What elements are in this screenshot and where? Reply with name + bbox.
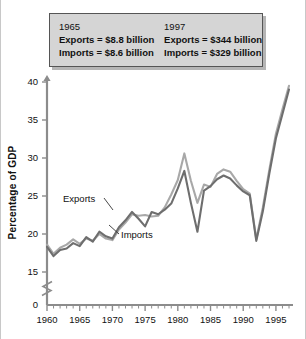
- fact-year-1965: 1965: [59, 20, 155, 33]
- chart-svg: 0152025303540 19601965197019751980198519…: [1, 70, 306, 339]
- y-axis-ticks: 0152025303540: [27, 76, 47, 310]
- y-tick-label: 15: [27, 266, 38, 277]
- x-tick-label: 1975: [135, 314, 156, 325]
- y-tick-label: 25: [27, 190, 38, 201]
- fact-box: 1965 Exports = $8.8 billion Imports = $8…: [49, 13, 263, 67]
- y-tick-label: 40: [27, 76, 38, 87]
- series-line-exports: [47, 86, 289, 254]
- fact-exports-1997: Exports = $344 billion: [164, 33, 262, 46]
- y-tick-label: 20: [27, 228, 38, 239]
- imports-annotation: Imports: [121, 229, 153, 240]
- axis-lines: [42, 75, 293, 305]
- exports-annotation: Exports: [63, 193, 95, 204]
- y-tick-label: 30: [27, 152, 38, 163]
- fact-exports-1965: Exports = $8.8 billion: [59, 33, 155, 46]
- x-tick-label: 1960: [36, 314, 57, 325]
- chart-page: 1965 Exports = $8.8 billion Imports = $8…: [0, 0, 306, 339]
- y-tick-label: 0: [33, 299, 38, 310]
- fact-imports-1997: Imports = $329 billion: [164, 46, 262, 59]
- x-axis-ticks: 19601965197019751980198519901995: [36, 305, 289, 325]
- series-line-imports: [47, 90, 289, 256]
- x-tick-label: 1990: [233, 314, 254, 325]
- x-tick-label: 1985: [200, 314, 221, 325]
- x-tick-label: 1970: [102, 314, 123, 325]
- y-tick-label: 35: [27, 114, 38, 125]
- fact-imports-1965: Imports = $8.6 billion: [59, 46, 155, 59]
- x-tick-label: 1995: [265, 314, 286, 325]
- x-tick-label: 1965: [69, 314, 90, 325]
- plot-area: 0152025303540 19601965197019751980198519…: [1, 70, 306, 339]
- data-series: [47, 86, 289, 256]
- fact-column-1965: 1965 Exports = $8.8 billion Imports = $8…: [50, 20, 155, 59]
- fact-column-1997: 1997 Exports = $344 billion Imports = $3…: [155, 20, 262, 59]
- x-tick-label: 1980: [167, 314, 188, 325]
- fact-year-1997: 1997: [164, 20, 262, 33]
